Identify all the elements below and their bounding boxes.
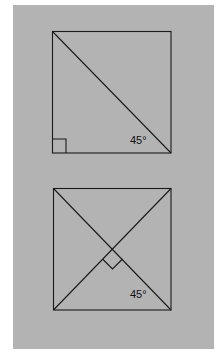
figure-bottom <box>54 189 172 311</box>
geometry-diagram: 45° 45° <box>0 0 220 355</box>
right-angle-marker <box>53 139 67 153</box>
figure-top <box>53 32 172 154</box>
angle-label-top: 45° <box>130 134 147 146</box>
top-diagonal <box>53 32 172 154</box>
right-angle-marker-center <box>103 259 123 269</box>
angle-label-bottom: 45° <box>130 288 147 300</box>
